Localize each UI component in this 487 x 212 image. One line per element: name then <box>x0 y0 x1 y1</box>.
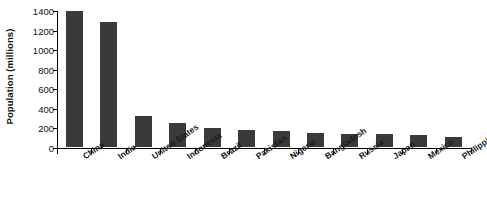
bar <box>100 22 117 147</box>
plot-area: 0200400600800100012001400 <box>57 11 472 148</box>
y-tick-label: 600 <box>38 84 54 95</box>
x-tick-label: Philippines <box>460 153 466 161</box>
x-tick-label: Japan <box>391 153 397 161</box>
x-tick-label: Mexico <box>426 153 432 161</box>
x-tick-label: India <box>116 153 122 161</box>
x-tick-label: Nigeria <box>288 153 294 161</box>
population-bar-chart: Population (millions) 020040060080010001… <box>0 0 487 212</box>
x-tick-label: China <box>81 153 87 161</box>
x-tick-label: Bangladesh <box>323 153 329 161</box>
y-tick-label: 0 <box>49 143 54 154</box>
bar <box>66 11 83 147</box>
x-tick-label: Russia <box>357 153 363 161</box>
y-axis-line <box>57 11 58 149</box>
bar <box>135 116 152 147</box>
y-tick-label: 400 <box>38 103 54 114</box>
y-tick-label: 1200 <box>33 25 54 36</box>
x-axis-labels: ChinaIndiaUnited StatesIndonesiaBrazilPa… <box>57 153 487 212</box>
y-tick-label: 1400 <box>33 6 54 17</box>
x-tick-label: Pakistan <box>254 153 260 161</box>
x-tick-label: Indonesia <box>185 153 191 161</box>
y-tick-label: 1000 <box>33 45 54 56</box>
y-tick-label: 800 <box>38 64 54 75</box>
x-tick-label: Brazil <box>219 153 225 161</box>
y-axis-title: Population (millions) <box>0 0 18 152</box>
y-tick-label: 200 <box>38 123 54 134</box>
x-tick-label: United States <box>150 153 156 161</box>
y-axis-title-text: Population (millions) <box>4 28 15 124</box>
